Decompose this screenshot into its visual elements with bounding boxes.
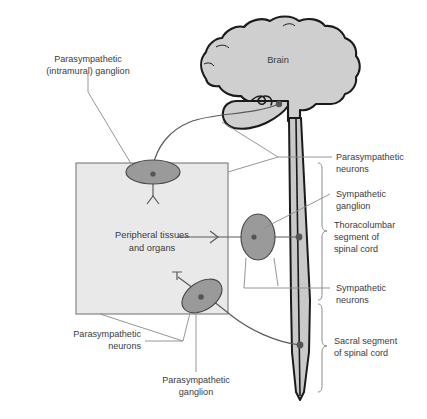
- label-parasympathetic-neurons-right-line2: neurons: [336, 164, 369, 174]
- sacral-bracket: [318, 304, 327, 392]
- peripheral-tissues-label-line2: and organs: [129, 243, 176, 253]
- label-sympathetic-ganglion-line2: ganglion: [336, 201, 370, 211]
- thoracolumbar-sympathetic-neuron-dot: [296, 234, 303, 241]
- label-parasympathetic-neurons-bottom-line2: neurons: [108, 341, 141, 351]
- parasympathetic-intramural-ganglion-shape: [126, 160, 180, 184]
- label-parasympathetic-neurons-right-line1: Parasympathetic: [336, 152, 404, 162]
- peripheral-tissues-label-line1: Peripheral tissues: [115, 230, 189, 240]
- brain-shape: [201, 17, 360, 129]
- label-sympathetic-ganglion-line1: Sympathetic: [336, 189, 386, 199]
- thoracolumbar-bracket: [318, 163, 327, 300]
- label-thoracolumbar-segment-line1: Thoracolumbar: [334, 220, 395, 230]
- brain-label: Brain: [267, 55, 289, 65]
- label-thoracolumbar-segment-line2: segment of: [334, 232, 379, 242]
- sympathetic-ganglion-shape: [241, 214, 275, 260]
- label-thoracolumbar-segment-line3: spinal cord: [334, 244, 378, 254]
- label-sympathetic-neurons-line1: Sympathetic: [336, 283, 386, 293]
- label-sacral-segment-line1: Sacral segment: [334, 336, 398, 346]
- spinal-cord-shape: [289, 118, 310, 400]
- brainstem-parasympathetic-neuron-dot: [276, 101, 282, 107]
- label-sacral-segment-line2: of spinal cord: [334, 348, 388, 358]
- ganglion-neuron-dot: [198, 294, 204, 300]
- leader-parasympathetic-neurons-right-a: [228, 157, 278, 172]
- ganglion-neuron-dot: [251, 234, 256, 239]
- ganglion-neuron-dot: [150, 171, 155, 176]
- leader-parasympathetic-neurons-bottom: [145, 313, 190, 341]
- sacral-parasympathetic-neuron-dot: [297, 342, 304, 349]
- autonomic-nervous-system-diagram: Brain Peripheral tissues and organs Para…: [0, 0, 427, 419]
- label-sympathetic-neurons-line2: neurons: [336, 295, 369, 305]
- leader-sympathetic-neurons-b: [274, 258, 278, 286]
- leader-parasympathetic-intramural-ganglion: [88, 74, 133, 167]
- label-parasympathetic-ganglion-bottom-line2: ganglion: [179, 387, 213, 397]
- diagram-canvas: Brain Peripheral tissues and organs Para…: [0, 0, 427, 419]
- label-parasympathetic-intramural-ganglion-line1: Parasympathetic: [54, 54, 122, 64]
- label-parasympathetic-intramural-ganglion-line2: (intramural) ganglion: [46, 66, 129, 76]
- leader-sympathetic-neurons: [244, 258, 330, 288]
- label-parasympathetic-ganglion-bottom-line1: Parasympathetic: [162, 375, 230, 385]
- label-parasympathetic-neurons-bottom-line1: Parasympathetic: [73, 329, 141, 339]
